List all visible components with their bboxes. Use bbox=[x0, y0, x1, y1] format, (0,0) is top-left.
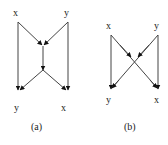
diagram-b: x y y x (b) bbox=[106, 20, 159, 133]
arrow-b-center-left bbox=[120, 45, 131, 57]
arrow-b-center-right bbox=[138, 45, 149, 57]
diagram-a: x y y x (a) bbox=[13, 7, 69, 133]
caption-a: (a) bbox=[31, 121, 42, 133]
label-a-top-right: y bbox=[64, 7, 69, 18]
edge-a-x-to-center bbox=[18, 22, 42, 45]
label-b-bottom-right: x bbox=[154, 94, 159, 105]
edge-a-split-right bbox=[43, 70, 66, 90]
label-b-bottom-left: y bbox=[106, 94, 111, 105]
caption-b: (b) bbox=[124, 121, 136, 133]
label-a-top-left: x bbox=[13, 7, 18, 18]
label-a-bottom-right: x bbox=[61, 102, 66, 113]
edge-a-y-to-center bbox=[44, 22, 68, 45]
diagram-canvas: x y y x (a) x y y x (b) bbox=[0, 0, 168, 145]
label-a-bottom-left: y bbox=[14, 102, 19, 113]
arrow-b-bottom-left bbox=[112, 80, 119, 88]
arrow-b-bottom-right bbox=[150, 80, 157, 88]
edge-a-split-left bbox=[20, 70, 43, 90]
label-b-top-right: y bbox=[154, 20, 159, 31]
label-b-top-left: x bbox=[106, 20, 111, 31]
